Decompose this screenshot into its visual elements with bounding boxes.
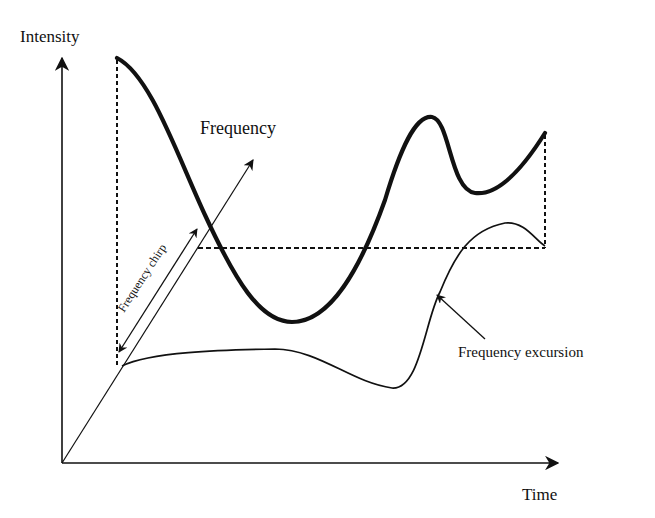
- chirp-diagram: Intensity Time Frequency Frequency chirp…: [0, 0, 655, 518]
- intensity-curve: [117, 58, 545, 322]
- frequency-axis-label: Frequency: [200, 118, 276, 138]
- excursion-label: Frequency excursion: [458, 344, 584, 360]
- excursion-pointer-arrow: [437, 295, 485, 339]
- chirp-label: Frequency chirp: [115, 241, 169, 314]
- x-axis-label: Time: [522, 485, 557, 504]
- frequency-axis: [62, 160, 253, 463]
- y-axis-label: Intensity: [20, 27, 80, 46]
